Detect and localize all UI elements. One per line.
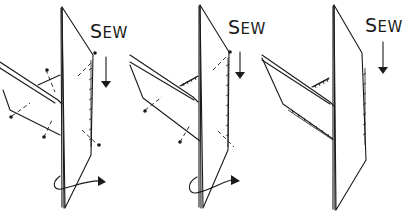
pin-2c	[213, 56, 227, 70]
flap-bottom-edge-2	[130, 65, 200, 141]
pin-1c	[44, 120, 52, 137]
panel-3	[262, 5, 388, 210]
flap-top-edge-1	[0, 62, 62, 104]
diagram-drawing	[0, 0, 404, 219]
flap-top-edge-2	[130, 55, 198, 102]
sewing-diagram: SEW SEW SEW	[0, 0, 404, 219]
rotate-arrow-2	[189, 177, 233, 193]
stitch-line-3b	[288, 110, 333, 140]
panel-1	[0, 7, 111, 208]
main-panel-2	[200, 5, 229, 208]
pin-2a	[145, 97, 162, 110]
main-panel-3	[334, 5, 366, 210]
pin-1e	[82, 130, 98, 145]
flap-bottom-edge-1	[3, 90, 60, 135]
main-panel-1	[62, 7, 93, 208]
pin-1b	[12, 103, 30, 116]
pin-2d	[218, 131, 234, 147]
panel-2	[130, 5, 245, 208]
